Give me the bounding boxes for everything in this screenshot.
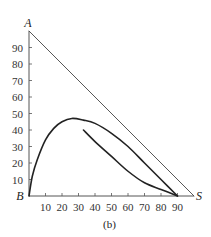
vertex-label-b: B (16, 189, 24, 203)
x-tick-label: 10 (40, 201, 52, 213)
data-series (29, 31, 194, 196)
y-tick-label: 70 (12, 75, 24, 87)
y-tick-label: 40 (12, 124, 24, 136)
y-tick-label: 80 (12, 58, 24, 70)
x-tick-label: 90 (172, 201, 184, 213)
x-tick-label: 70 (139, 201, 151, 213)
labels: 102030405060708090102030405060708090ABS(… (12, 16, 202, 231)
vertex-label-s: S (196, 189, 202, 203)
x-tick-label: 60 (123, 201, 135, 213)
x-tick-label: 20 (57, 201, 69, 213)
ternary-section-chart: 102030405060708090102030405060708090ABS(… (0, 0, 211, 237)
y-tick-label: 20 (12, 157, 24, 169)
y-tick-label: 10 (12, 174, 24, 186)
chart-caption-text: (b) (103, 218, 116, 231)
lower-curve (83, 130, 177, 196)
y-tick-label: 50 (12, 108, 24, 120)
y-tick-label: 30 (12, 141, 24, 153)
vertex-label-a: A (23, 16, 32, 30)
x-tick-label: 50 (106, 201, 118, 213)
x-tick-label: 30 (73, 201, 85, 213)
hypotenuse-line (29, 31, 194, 196)
y-tick-label: 90 (12, 42, 24, 54)
y-tick-label: 60 (12, 91, 24, 103)
x-tick-label: 80 (156, 201, 168, 213)
x-tick-label: 40 (90, 201, 102, 213)
